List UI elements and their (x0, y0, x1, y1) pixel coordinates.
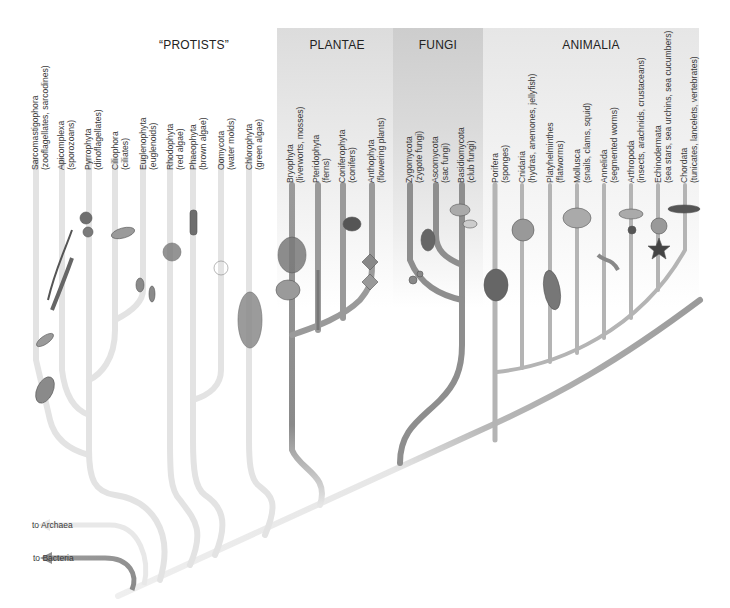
brown-algae-illustration (190, 210, 197, 235)
green-algae-illustration (238, 292, 262, 348)
taxon-label-chordata: Chordata(tunicates, lancelets, vertebrat… (679, 56, 699, 183)
clam-illustration (563, 208, 591, 228)
zygote-fungi-illustration (409, 276, 417, 284)
taxon-label-mollusca: Mollusca(snails, clams, squid) (572, 103, 592, 183)
taxon-label-ascomycota: Ascomycota(sac fungi) (430, 136, 450, 183)
fungi-branches (400, 185, 462, 463)
taxon-label-platyhelminthes: Platyhelminthes(flatworms) (545, 122, 565, 183)
mushroom-illustration (450, 204, 470, 216)
red-algae-illustration (163, 243, 181, 261)
taxon-label-ciliophora: Ciliophora(ciliates) (110, 131, 130, 170)
flowering-plant-illustration (362, 254, 378, 270)
taxon-label-chlorophyta: Chlorophyta(green algae) (244, 119, 264, 170)
protist-branches (36, 160, 273, 580)
taxon-label-pteridophyta: Pteridophyta(ferns) (311, 135, 331, 183)
anemone-illustration (512, 219, 534, 241)
taxon-label-sarcomastigophora: Sarcomastigophora(zooflagellates, sarcod… (30, 65, 50, 170)
taxon-label-phaeophyta: Phaeophyta(brown algae) (188, 117, 208, 170)
moss-illustration (278, 237, 306, 273)
archaea-label: to Archaea (32, 520, 73, 530)
taxon-label-anthophyta: Anthophyta(flowering plants) (366, 118, 386, 183)
main-trunk (118, 300, 700, 596)
sponge-illustration (484, 269, 508, 301)
zooflagellate-illustration (32, 374, 58, 406)
salamander-illustration (668, 205, 700, 213)
taxon-label-cnidaria: Cnidaria(hydras, anemones, jellyfish) (517, 74, 537, 183)
taxon-label-porifera: Porifera(sponges) (490, 145, 510, 183)
organism-illustrations (32, 204, 700, 406)
flatworm-illustration (541, 269, 564, 311)
pinecone-illustration (343, 217, 361, 231)
dinoflagellate-illustration (80, 212, 92, 224)
taxon-label-pyrrophyta: Pyrrophyta(dinoflagellates) (83, 109, 103, 170)
taxon-label-euglenophyta: Euglenophyta(euglenoids) (138, 117, 158, 170)
euglenoid-illustration (136, 278, 144, 292)
taxon-label-coniferophyta: Coniferophyta(conifers) (337, 129, 357, 183)
plantae-branches (292, 185, 372, 505)
taxon-label-apicomplexa: Apicomplexa(sporozoans) (56, 120, 76, 170)
phylogenetic-tree (0, 0, 730, 608)
taxon-label-annelida: Annelida(segmented worms) (599, 107, 619, 183)
taxon-label-bryophyta: Bryophyta(liverworts, mosses) (285, 107, 305, 183)
segmented-worm-illustration (598, 255, 618, 270)
arthropod-illustration (619, 209, 643, 219)
taxon-label-arthropoda: Arthropoda(insects, arachnids, crustacea… (626, 57, 646, 183)
morel-illustration (421, 229, 435, 251)
taxon-label-rhodophyta: Rhodophyta(red algae) (165, 124, 185, 170)
taxon-label-basidiomycota: Basidiomycota(club fungi) (456, 127, 476, 183)
sea-urchin-illustration (651, 218, 667, 234)
taxon-label-zygomycota: Zygomycota(zygote fungi) (404, 131, 424, 183)
taxon-label-echinodermata: Echinodermata(sea stars, sea urchins, se… (653, 31, 673, 183)
bacteria-label: to Bacteria (33, 553, 74, 563)
taxon-label-oomycota: Oomycota(water molds) (216, 118, 236, 170)
